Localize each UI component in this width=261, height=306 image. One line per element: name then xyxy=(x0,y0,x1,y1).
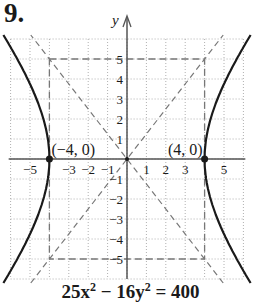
svg-text:(4, 0): (4, 0) xyxy=(168,141,203,159)
svg-text:3: 3 xyxy=(182,162,189,177)
svg-text:−1: −1 xyxy=(109,172,123,187)
svg-text:−2: −2 xyxy=(81,162,95,177)
svg-text:−2: −2 xyxy=(109,192,123,207)
svg-text:y: y xyxy=(110,12,119,28)
svg-text:3: 3 xyxy=(117,92,124,107)
svg-text:1: 1 xyxy=(117,132,124,147)
svg-text:2: 2 xyxy=(117,112,124,127)
svg-text:−4: −4 xyxy=(109,232,123,247)
svg-text:−5: −5 xyxy=(23,162,37,177)
svg-text:−3: −3 xyxy=(109,212,123,227)
equation-caption: 25x2 − 16y2 = 400 xyxy=(0,280,261,303)
svg-text:(−4, 0): (−4, 0) xyxy=(51,141,95,159)
svg-text:4: 4 xyxy=(117,72,124,87)
svg-text:−5: −5 xyxy=(109,252,123,267)
svg-text:1: 1 xyxy=(143,162,150,177)
svg-text:2: 2 xyxy=(163,162,170,177)
svg-text:5: 5 xyxy=(117,52,124,67)
svg-text:5: 5 xyxy=(221,162,228,177)
svg-text:−3: −3 xyxy=(62,162,76,177)
hyperbola-graph: y −5−3−2−1123554321−1−2−3−4−5 (−4, 0)(4,… xyxy=(0,0,261,306)
